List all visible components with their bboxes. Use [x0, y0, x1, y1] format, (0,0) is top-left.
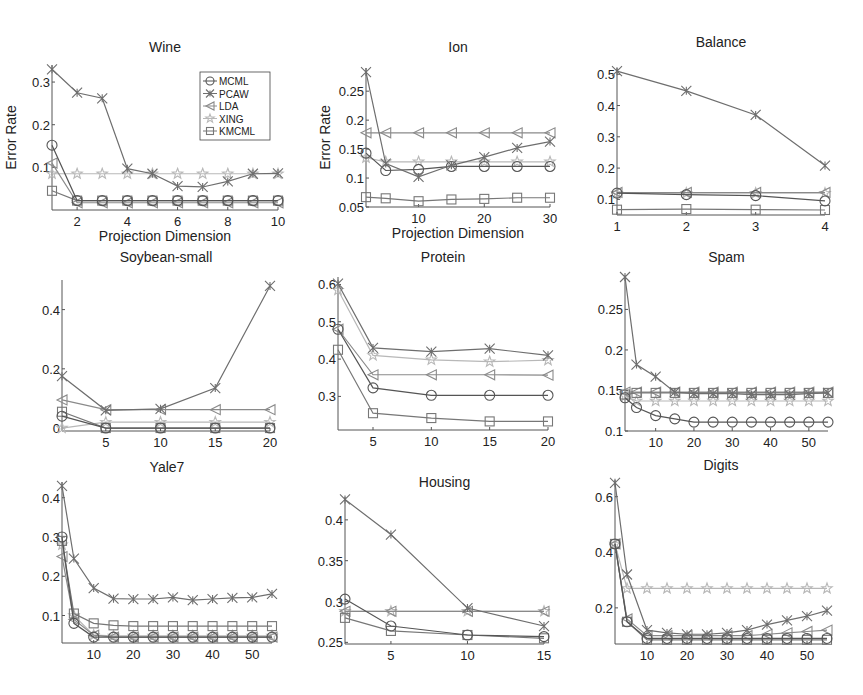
subplot-spam: Spam10203040500.10.150.20.25: [575, 265, 863, 455]
chart-title: Spam: [708, 249, 745, 265]
x-marker-icon: [822, 606, 832, 616]
y-tick-label: 0.1: [605, 424, 623, 439]
x-tick-label: 1: [613, 219, 620, 234]
chart-title: Yale7: [150, 459, 185, 475]
x-tick-label: 2: [73, 214, 80, 229]
x-tick-label: 3: [752, 219, 759, 234]
y-tick-label: 0.2: [595, 601, 613, 616]
x-marker-icon: [545, 137, 555, 147]
x-tick-label: 2: [683, 219, 690, 234]
y-tick-label: 0.2: [346, 113, 364, 128]
y-tick-label: 0.3: [318, 389, 336, 404]
series-pcaw: [333, 279, 553, 361]
series-pcaw: [612, 66, 830, 170]
x-tick-label: 40: [760, 648, 774, 663]
subplot-wine: Wine2468100.10.20.3Projection DimensionE…: [0, 60, 290, 240]
x-tick-label: 10: [411, 211, 425, 226]
series-lda: [57, 552, 277, 643]
series-xing: [333, 285, 553, 367]
x-marker-icon: [210, 383, 220, 393]
x-tick-label: 15: [482, 434, 496, 449]
x-marker-icon: [681, 86, 691, 96]
x-tick-label: 10: [271, 214, 285, 229]
subplot-housing: Housing510150.250.30.350.4: [290, 450, 580, 650]
y-tick-label: 0.1: [346, 171, 364, 186]
x-marker-icon: [69, 554, 79, 564]
x-marker-icon: [462, 603, 472, 613]
x-tick-label: 10: [424, 434, 438, 449]
x-tick-label: 10: [460, 648, 474, 663]
y-tick-label: 0.25: [339, 84, 364, 99]
chart-title: Protein: [421, 249, 465, 265]
x-tick-label: 5: [387, 648, 394, 663]
x-tick-label: 10: [648, 435, 662, 450]
chart-title: Wine: [149, 39, 181, 55]
x-marker-icon: [762, 620, 772, 630]
x-marker-icon: [751, 110, 761, 120]
axes: [615, 480, 827, 644]
y-tick-label: 0.2: [605, 343, 623, 358]
y-tick-label: 0.35: [318, 554, 343, 569]
x-tick-label: 15: [208, 435, 222, 450]
x-tick-label: 50: [800, 648, 814, 663]
series-xing: [57, 417, 275, 433]
x-tick-label: 6: [174, 214, 181, 229]
chart-title: Housing: [419, 474, 470, 490]
x-marker-icon: [89, 583, 99, 593]
x-marker-icon: [72, 88, 82, 98]
subplot-protein: Protein51015200.30.40.50.6: [290, 265, 580, 455]
x-marker-icon: [340, 494, 350, 504]
x-tick-label: 20: [541, 434, 555, 449]
chart-title: Soybean-small: [120, 249, 213, 265]
x-tick-label: 20: [680, 648, 694, 663]
series-pcaw: [361, 67, 555, 182]
series-kmcml: [362, 193, 555, 206]
chart-title: Ion: [448, 39, 467, 55]
subplot-balance: Balance12340.10.20.30.40.5: [575, 60, 863, 240]
x-marker-icon: [265, 281, 275, 291]
x-tick-label: 40: [205, 647, 219, 662]
x-tick-label: 10: [86, 647, 100, 662]
series-pcaw: [610, 478, 832, 639]
y-axis-label: Error Rate: [3, 105, 19, 170]
x-marker-icon: [610, 478, 620, 488]
x-marker-icon: [223, 176, 233, 186]
series-xing: [610, 538, 832, 593]
x-marker-icon: [414, 172, 424, 182]
x-tick-label: 10: [640, 648, 654, 663]
x-marker-icon: [361, 67, 371, 77]
chart-title: Balance: [696, 34, 747, 50]
legend-label-xing: XING: [219, 114, 244, 125]
series-mcml: [610, 539, 832, 644]
x-tick-label: 10: [153, 435, 167, 450]
x-marker-icon: [47, 64, 57, 74]
y-tick-label: 0.2: [42, 362, 60, 377]
figure-grid: Wine2468100.10.20.3Projection DimensionE…: [0, 0, 863, 695]
y-tick-label: 0.25: [598, 302, 623, 317]
x-marker-icon: [512, 143, 522, 153]
x-axis-label: Projection Dimension: [392, 225, 524, 241]
chart-title: Digits: [703, 457, 738, 473]
series-kmcml: [341, 613, 549, 642]
series-pcaw: [57, 481, 277, 605]
axes: [345, 497, 544, 644]
x-tick-label: 50: [245, 647, 259, 662]
x-tick-label: 20: [477, 211, 491, 226]
x-tick-label: 30: [720, 648, 734, 663]
legend-label-mcml: MCML: [219, 76, 249, 87]
series-xing: [57, 539, 277, 640]
series-pcaw: [340, 494, 549, 631]
x-tick-label: 20: [263, 435, 277, 450]
x-marker-icon: [782, 615, 792, 625]
subplot-yale7: Yale710203040500.10.20.30.4: [0, 450, 290, 650]
series-xing: [47, 168, 283, 178]
y-tick-label: 0.3: [597, 130, 615, 145]
series-kmcml: [613, 205, 830, 215]
x-tick-label: 15: [537, 648, 551, 663]
series-kmcml: [334, 345, 553, 426]
x-tick-label: 5: [369, 434, 376, 449]
subplot-ion: Ion1020300.050.10.150.20.25Projection Di…: [290, 60, 580, 240]
x-tick-label: 20: [687, 435, 701, 450]
legend-label-kmcml: KMCML: [219, 126, 256, 137]
x-marker-icon: [97, 93, 107, 103]
